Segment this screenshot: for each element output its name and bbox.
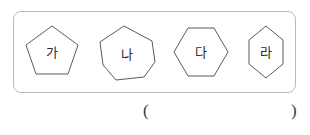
shape-label-ga: 가: [46, 46, 58, 59]
shape-label-da: 다: [195, 46, 207, 59]
worksheet-page: 가 나 다 라 ( ): [0, 0, 310, 135]
answer-close-paren: ): [291, 102, 297, 119]
shape-label-ra: 라: [260, 46, 272, 59]
shape-label-na: 나: [121, 48, 133, 61]
answer-row: ( ): [0, 100, 310, 130]
answer-open-paren: (: [143, 102, 149, 119]
